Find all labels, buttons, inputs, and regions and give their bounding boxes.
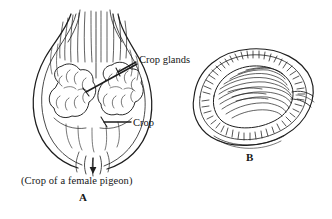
crop-section-opening-upper xyxy=(292,91,313,96)
leader-line-crop-glands-upper xyxy=(118,62,136,72)
crop-outline-right-inner xyxy=(104,14,145,166)
figure-caption: (Crop of a female pigeon) xyxy=(21,176,133,187)
panel-label-b: B xyxy=(246,152,253,163)
caption-arrow-head xyxy=(90,167,97,174)
panel-b-drawing xyxy=(193,49,314,149)
label-crop: Crop xyxy=(133,118,154,129)
crop-outline-left-inner xyxy=(42,14,82,165)
panel-a-drawing xyxy=(33,10,152,176)
label-crop-glands: Crop glands xyxy=(139,55,190,66)
crop-section-inner-folds xyxy=(219,68,292,118)
figure-canvas: Crop glands Crop (Crop of a female pigeo… xyxy=(0,0,332,219)
panel-label-a: A xyxy=(79,192,87,203)
